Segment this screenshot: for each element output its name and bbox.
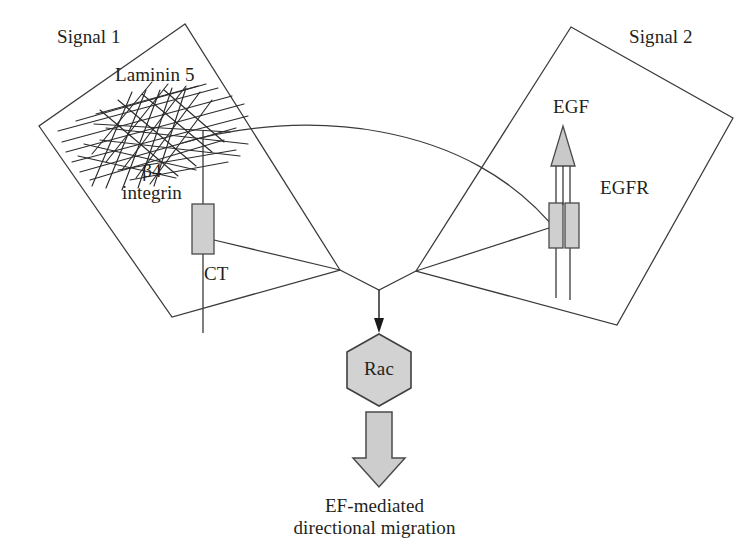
caption-line-2: directional migration — [0, 517, 749, 539]
egfr-to-center-link — [416, 228, 549, 271]
egfr-subunit-box-left — [549, 203, 563, 248]
beta4-integrin-label-line1: β4 — [142, 160, 161, 181]
signal2-label: Signal 2 — [629, 26, 693, 48]
laminin5-label: Laminin 5 — [115, 64, 195, 86]
beta4-integrin-label-line2: integrin — [122, 182, 182, 203]
egfr-subunit-box-right — [565, 203, 579, 248]
signal2-panel — [416, 27, 733, 325]
egfr-label: EGFR — [600, 177, 649, 199]
signalling-diagram — [0, 0, 749, 556]
outcome-block-arrow — [353, 412, 405, 487]
membrane-arc — [182, 125, 560, 235]
beta4-integrin-label: β4 integrin — [98, 160, 206, 205]
egf-arrow — [551, 126, 575, 205]
figure-root: Signal 1 Laminin 5 β4 integrin CT Signal… — [0, 0, 749, 556]
egf-label: EGF — [553, 96, 589, 118]
signal1-label: Signal 1 — [57, 26, 121, 48]
ct-label: CT — [204, 263, 228, 285]
beta4-integrin-box — [192, 204, 214, 254]
beta4-integrin-receptor — [192, 130, 340, 333]
rac-label: Rac — [347, 358, 411, 380]
beta4-to-center-link — [214, 240, 340, 270]
figure-caption: EF-mediated directional migration — [0, 495, 749, 540]
caption-line-1: EF-mediated — [0, 495, 749, 517]
convergence-arrow — [340, 270, 416, 333]
